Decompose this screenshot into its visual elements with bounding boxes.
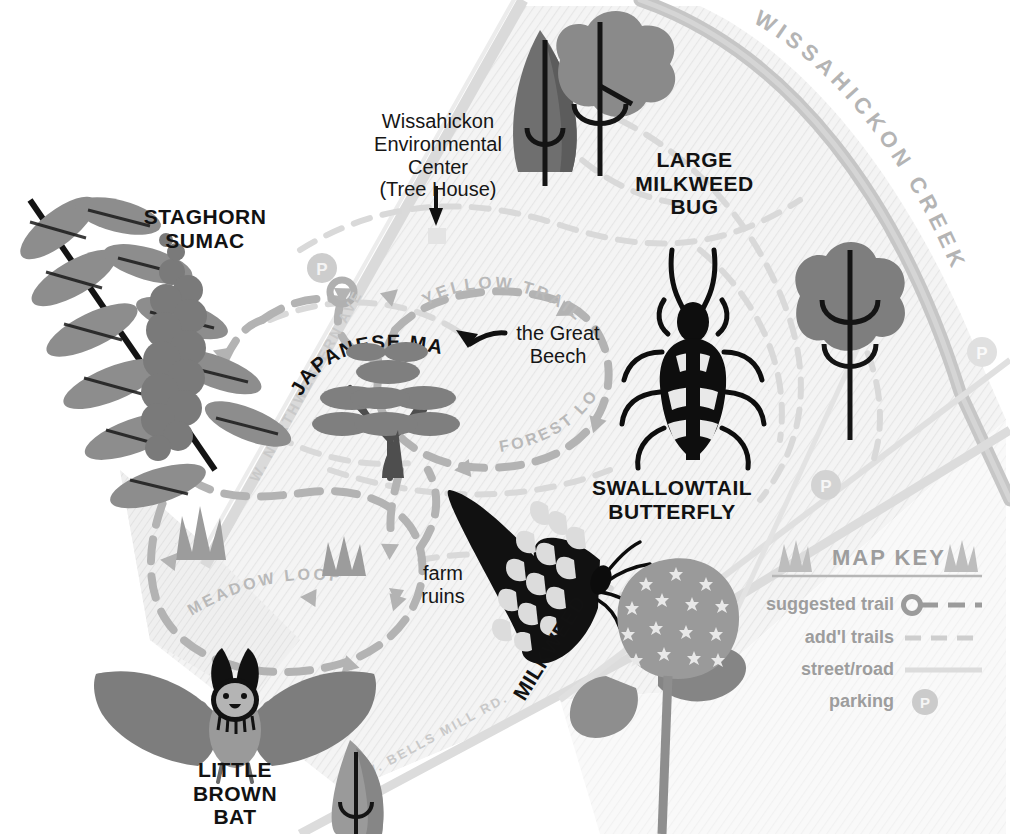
specimen-label-swallowtail-butterfly: SWALLOWTAIL BUTTERFLY	[572, 476, 772, 523]
label-environmental-center: Wissahickon Environmental Center (Tree H…	[348, 110, 528, 201]
specimen-label-large-milkweed-bug: LARGE MILKWEED BUG	[612, 148, 777, 219]
map-key-label-additional-trails: add'l trails	[738, 627, 894, 648]
label-great-beech: the Great Beech	[498, 322, 618, 368]
specimen-label-little-brown-bat: LITTLE BROWN BAT	[155, 758, 315, 829]
map-key-title: MAP KEY	[832, 545, 946, 571]
illustration-large-milkweed-bug	[622, 250, 764, 468]
label-farm-ruins: farm ruins	[400, 562, 486, 608]
map-key-label-parking: parking	[738, 691, 894, 712]
specimen-label-staghorn-sumac: STAGHORN SUMAC	[110, 205, 300, 252]
map-canvas: WISSAHICKON CREEK W. NORTHWESTERN AVE W.…	[0, 0, 1010, 834]
map-key-label-street-road: street/road	[738, 659, 894, 680]
map-key-label-suggested-trail: suggested trail	[738, 594, 894, 615]
illustration-japanese-maple	[312, 342, 460, 478]
